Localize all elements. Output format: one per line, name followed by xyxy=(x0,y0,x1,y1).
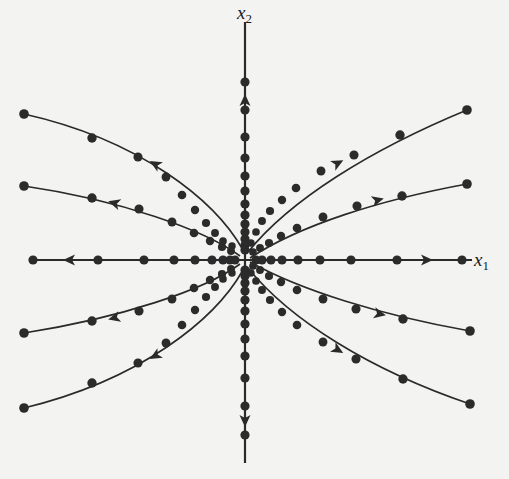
q3-lower-dot xyxy=(202,293,210,301)
trajectory-dots xyxy=(19,77,475,439)
q1-upper-dot xyxy=(247,239,254,246)
negative-x2-axis-dot xyxy=(240,286,249,295)
negative-x2-axis-dot xyxy=(240,295,249,304)
negative-x1-axis-dot xyxy=(169,255,178,264)
positive-x2-axis-dot xyxy=(240,171,249,180)
q4-upper-dot xyxy=(249,262,257,270)
positive-x1-axis-dot xyxy=(266,255,275,264)
positive-x1-axis-dot xyxy=(257,255,266,264)
q2-upper-dot xyxy=(87,133,96,142)
positive-x2-axis-dot xyxy=(240,210,249,219)
q3-upper-dot xyxy=(19,328,29,338)
negative-x1-axis-dot xyxy=(207,255,216,264)
q1-upper-inner-dot xyxy=(256,244,264,252)
negative-x1-axis-dot xyxy=(28,255,37,264)
q3-lower-dot xyxy=(133,358,142,367)
q2-upper-dot xyxy=(202,219,210,227)
q3-upper-dot xyxy=(87,316,96,325)
x2-axis-label: x2 xyxy=(237,3,252,25)
positive-x2-axis-dot xyxy=(240,245,249,254)
q4-upper-dot xyxy=(319,295,328,304)
q1-upper-dot xyxy=(395,130,404,139)
q3-lower-dot xyxy=(228,269,235,276)
q4-lower-curve xyxy=(248,268,470,404)
negative-x1-axis-dot xyxy=(190,255,199,264)
q2-lower-dot xyxy=(19,181,29,191)
q3-lower-dot xyxy=(87,378,96,387)
q2-upper-dot xyxy=(211,229,219,237)
q3-upper-dot xyxy=(206,276,214,284)
q1-upper-inner-dot xyxy=(352,201,361,210)
q2-lower-dot xyxy=(206,237,214,245)
q1-upper-dot xyxy=(292,184,301,193)
phase-portrait: x2 x1 xyxy=(0,0,509,479)
negative-x2-axis-dot xyxy=(240,306,249,315)
negative-x2-axis-dot xyxy=(240,401,249,410)
negative-x2-axis-dot xyxy=(240,334,249,343)
q2-upper-dot xyxy=(133,152,142,161)
q4-upper-dot xyxy=(256,266,264,274)
x1-label-subscript: 1 xyxy=(482,258,489,273)
positive-x1-axis-dot xyxy=(277,255,286,264)
q4-upper-dot xyxy=(351,304,360,313)
q4-lower-arrow-icon xyxy=(330,342,346,358)
q4-upper-dot xyxy=(277,278,285,286)
q4-upper-dot xyxy=(465,326,475,336)
q1-upper-dot xyxy=(349,150,358,159)
negative-x2-axis-dot xyxy=(240,278,249,287)
q1-upper-inner-dot xyxy=(397,191,406,200)
q1-upper-inner-curve xyxy=(250,184,467,258)
q3-upper-dot xyxy=(134,306,143,315)
q3-lower-dot xyxy=(19,403,29,413)
q1-upper-inner-dot xyxy=(319,213,328,222)
q2-upper-dot xyxy=(19,109,29,119)
q4-upper-dot xyxy=(293,286,302,295)
q1-upper-curve xyxy=(248,110,467,252)
positive-x1-axis-dot xyxy=(457,255,466,264)
negative-x1-axis-dot xyxy=(139,255,148,264)
q1-upper-dot xyxy=(278,196,286,204)
q4-lower-dot xyxy=(258,286,266,294)
q2-upper-dot xyxy=(191,206,199,214)
q1-upper-dot xyxy=(317,167,326,176)
q2-lower-dot xyxy=(190,229,199,238)
positive-x1-axis-dot xyxy=(315,255,324,264)
q3-lower-dot xyxy=(178,321,187,330)
q4-lower-dot xyxy=(293,321,302,330)
q1-upper-dot xyxy=(258,217,266,225)
q3-lower-dot xyxy=(162,339,171,348)
q1-upper-dot xyxy=(266,207,274,215)
q3-lower-curve xyxy=(24,270,243,408)
q1-upper-arrow-icon xyxy=(330,155,346,170)
negative-x2-axis-dot xyxy=(240,373,249,382)
positive-x2-axis-dot xyxy=(240,77,249,86)
phase-plot-canvas xyxy=(0,0,509,479)
negative-x2-axis-dot xyxy=(240,319,249,328)
positive-x1-axis-dot xyxy=(392,255,401,264)
q2-upper-curve xyxy=(24,114,243,250)
q2-upper-dot xyxy=(178,191,187,200)
arrowhead-icon xyxy=(330,155,346,170)
positive-x2-axis-dot xyxy=(240,132,249,141)
q1-upper-inner-dot xyxy=(293,224,302,233)
positive-x1-axis-dot xyxy=(346,255,355,264)
q4-lower-dot xyxy=(351,354,360,363)
q4-upper-dot xyxy=(398,314,407,323)
negative-x1-axis-dot xyxy=(230,255,239,264)
negative-x1-axis-dot xyxy=(93,255,102,264)
q1-upper-dot xyxy=(252,228,260,236)
q1-upper-inner-dot xyxy=(249,248,257,256)
positive-x2-axis-dot xyxy=(240,199,249,208)
q3-upper-dot xyxy=(168,295,177,304)
q3-lower-dot xyxy=(219,275,227,283)
q4-upper-curve xyxy=(250,262,470,331)
q4-lower-dot xyxy=(465,399,475,409)
positive-x1-axis-dot xyxy=(293,255,302,264)
arrowhead-icon xyxy=(330,342,346,358)
q2-lower-dot xyxy=(227,247,235,255)
q1-upper-inner-dot xyxy=(265,239,273,247)
q4-lower-dot xyxy=(266,296,274,304)
q1-upper-inner-dot xyxy=(462,179,472,189)
x1-axis-label: x1 xyxy=(474,250,489,272)
q2-lower-dot xyxy=(134,204,143,213)
